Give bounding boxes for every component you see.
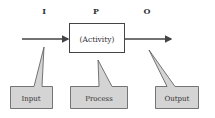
header-i: I — [42, 6, 46, 16]
activity-label: (Activity) — [80, 35, 115, 44]
input-label: Input — [21, 95, 40, 103]
output-label: Output — [165, 95, 190, 103]
header-o: O — [144, 6, 151, 16]
process-label: Process — [85, 95, 113, 103]
header-p: P — [93, 6, 99, 16]
ipo-diagram: I P O (Activity) Input Process Output — [0, 0, 215, 118]
